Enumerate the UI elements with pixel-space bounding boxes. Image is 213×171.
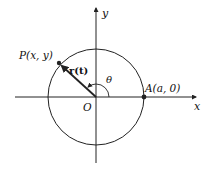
point-p-label: P(x, y) bbox=[18, 49, 53, 61]
point-p-dot bbox=[57, 61, 61, 65]
vector-label: r(t) bbox=[69, 65, 88, 76]
diagram-canvas: y x P(x, y) r(t) θ O A(a, 0) bbox=[0, 0, 213, 171]
point-a-dot bbox=[142, 95, 147, 100]
origin-label: O bbox=[83, 101, 92, 113]
point-a-label: A(a, 0) bbox=[144, 82, 180, 94]
y-axis-label: y bbox=[101, 7, 109, 20]
angle-arc bbox=[88, 84, 109, 97]
angle-label: θ bbox=[106, 74, 112, 85]
x-axis-label: x bbox=[194, 100, 201, 113]
